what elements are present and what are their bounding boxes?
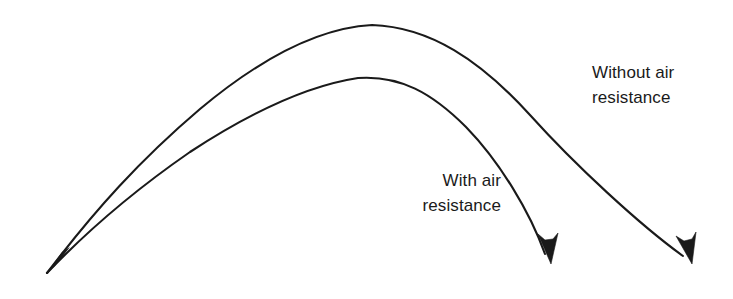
label-with-air-resistance-line1: With air bbox=[340, 168, 501, 193]
label-with-air-resistance: With air resistance bbox=[340, 168, 501, 218]
label-with-air-resistance-line2: resistance bbox=[340, 193, 501, 218]
trajectory-without-air-resistance bbox=[47, 25, 683, 273]
launch-origin-taper bbox=[47, 247, 70, 273]
arrowhead-with-air-resistance bbox=[538, 233, 558, 264]
label-without-air-resistance: Without air resistance bbox=[592, 60, 674, 110]
label-without-air-resistance-line1: Without air bbox=[592, 60, 674, 85]
label-without-air-resistance-line2: resistance bbox=[592, 85, 674, 110]
projectile-trajectory-diagram: Without air resistance With air resistan… bbox=[0, 0, 733, 299]
arrowhead-without-air-resistance bbox=[676, 232, 696, 264]
trajectory-canvas bbox=[0, 0, 733, 299]
